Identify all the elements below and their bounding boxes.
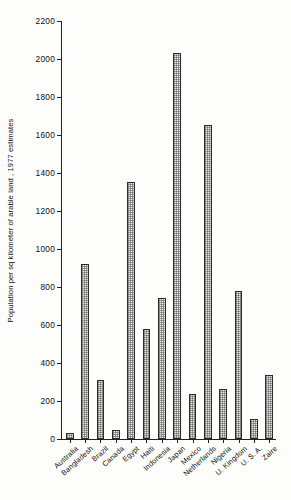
bar-japan [173,53,181,439]
y-axis-title-container: Population per sq kilometer of arable la… [0,0,22,440]
y-tick-label: 200 [40,396,55,406]
bar-chart-figure: Population per sq kilometer of arable la… [0,0,291,500]
bar-nigeria [219,389,227,439]
y-axis-title: Population per sq kilometer of arable la… [7,118,16,322]
bar-mexico [189,394,197,439]
x-tick-mark [162,439,163,443]
bar-series [62,22,276,439]
plot-area: 0200400600800100012001400160018002000220… [61,22,276,440]
x-tick-mark [85,439,86,443]
bar-egypt [127,182,135,439]
x-tick-mark [100,439,101,443]
y-tick-label: 1400 [36,168,55,178]
x-tick-mark [193,439,194,443]
y-tick-label: 0 [50,434,55,444]
x-tick-mark [177,439,178,443]
x-tick-mark [131,439,132,443]
x-tick-mark [254,439,255,443]
bar-u-s-a [250,419,258,439]
bar-indonesia [158,298,166,439]
bar-haiti [143,329,151,439]
bar-canada [112,430,120,440]
y-tick-label: 1000 [36,244,55,254]
y-tick-mark [57,439,62,440]
bar-bangladesh [81,264,89,439]
y-tick-label: 1200 [36,206,55,216]
y-tick-label: 2000 [36,54,55,64]
y-tick-label: 600 [40,320,55,330]
y-tick-label: 2200 [36,16,55,26]
x-tick-mark [239,439,240,443]
bar-netherlands [204,125,212,439]
x-tick-mark [116,439,117,443]
y-tick-label: 400 [40,358,55,368]
bar-zaire [265,375,273,439]
x-tick-mark [70,439,71,443]
x-tick-mark [208,439,209,443]
x-tick-label-zaire: Zaire [260,444,279,462]
y-tick-label: 800 [40,282,55,292]
bar-brazil [97,380,105,439]
y-tick-label: 1600 [36,130,55,140]
y-tick-label: 1800 [36,92,55,102]
x-tick-mark [269,439,270,443]
x-tick-mark [146,439,147,443]
x-tick-mark [223,439,224,443]
x-axis-tick-labels: AustraliaBangladeshBrazilCanadaEgyptHait… [61,444,276,500]
bar-u-kingdom [235,291,243,439]
